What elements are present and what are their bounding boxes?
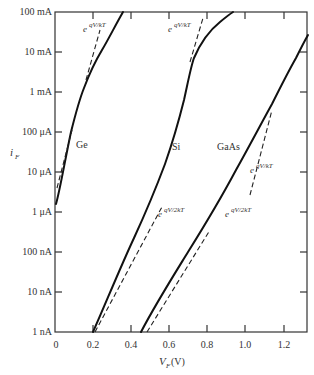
gaas-kt-annotation: e qV/kT [250,162,274,175]
y-axis-title: i F [10,146,20,161]
svg-text:(V): (V) [171,356,185,368]
si-2kt-annotation: e qV/2kT [158,206,185,219]
svg-text:qV/kT: qV/kT [256,162,274,170]
svg-text:qV/kT: qV/kT [89,21,107,29]
x-tick-0.4: 0.4 [125,339,138,350]
svg-text:i: i [10,146,13,158]
ge-label: Ge [76,139,88,150]
y-tick-1uA: 1 μA [32,206,53,217]
gaas-2kt-annotation: e qV/2kT [225,206,252,219]
x-tick-0.8: 0.8 [201,339,214,350]
ge-kt-asymptote-upper [86,30,100,80]
y-tick-10nA: 10 nA [27,286,53,297]
svg-text:qV/2kT: qV/2kT [231,206,252,214]
iv-chart: 100 mA 10 mA 1 mA 100 μA 10 μA 1 μA 100 … [0,0,314,375]
y-tick-10uA: 10 μA [27,166,53,177]
y-tick-100uA: 100 μA [22,126,53,137]
x-tick-0: 0 [54,339,59,350]
y-tick-10mA: 10 mA [25,46,53,57]
ge-kt-annotation: e qV/kT [83,21,107,34]
si-label: Si [172,141,181,152]
y-tick-labels: 100 mA 10 mA 1 mA 100 μA 10 μA 1 μA 100 … [20,6,53,337]
x-ticks [93,12,284,332]
y-tick-1nA: 1 nA [32,326,53,337]
plot-frame [55,12,307,332]
x-tick-0.2: 0.2 [87,339,100,350]
svg-text:qV/kT: qV/kT [174,21,192,29]
svg-text:qV/2kT: qV/2kT [164,206,185,214]
gaas-2kt-asymptote [147,230,210,332]
ge-kt-asymptote [57,130,72,188]
svg-text:e: e [83,24,87,34]
y-ticks-right [300,52,307,292]
si-kt-annotation: e qV/kT [168,21,192,34]
si-curve [93,12,233,332]
x-tick-labels: 0 0.2 0.4 0.6 0.8 1.0 1.2 [54,339,291,350]
si-kt-asymptote [190,18,203,62]
ge-curve [56,12,123,204]
svg-text:e: e [158,209,162,219]
x-tick-1.0: 1.0 [239,339,252,350]
gaas-label: GaAs [217,141,240,152]
gaas-curve [141,35,308,332]
y-tick-1mA: 1 mA [30,86,53,97]
x-tick-1.2: 1.2 [278,339,291,350]
svg-text:e: e [168,24,172,34]
x-tick-0.6: 0.6 [163,339,176,350]
x-axis-title: V F (V) [159,355,185,370]
svg-text:F: F [14,153,20,161]
si-2kt-asymptote [95,205,163,332]
svg-text:e: e [225,209,229,219]
y-tick-100mA: 100 mA [20,6,53,17]
svg-text:e: e [250,165,254,175]
y-tick-100nA: 100 nA [22,246,53,257]
